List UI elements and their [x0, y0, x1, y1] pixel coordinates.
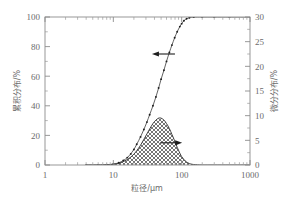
y2-tick-label: 5: [255, 136, 260, 146]
chart-canvas: 1101001000 020406080100 051015202530 粒径/…: [0, 0, 290, 204]
data-point: [186, 18, 188, 20]
y-tick-label: 40: [31, 101, 41, 111]
data-point: [168, 52, 170, 54]
data-point: [166, 60, 168, 62]
data-point: [136, 143, 138, 145]
data-point: [160, 78, 162, 80]
y-tick-label: 60: [31, 72, 41, 82]
data-point: [152, 105, 154, 107]
data-point: [163, 69, 165, 71]
data-point: [126, 157, 128, 159]
y2-tick-label: 20: [255, 62, 265, 72]
x-tick-label: 1000: [241, 170, 260, 180]
y-tick-label: 80: [31, 42, 41, 52]
y2-tick-label: 10: [255, 111, 265, 121]
x-axis-title: 粒径/μm: [131, 183, 163, 193]
x-tick-label: 100: [175, 170, 189, 180]
data-point: [122, 160, 124, 162]
data-point: [171, 44, 173, 46]
y-axis-right-title: 微分分布/%: [269, 69, 279, 112]
x-tick-label: 1: [43, 170, 48, 180]
data-point: [176, 31, 178, 33]
particle-size-distribution-chart: 1101001000 020406080100 051015202530 粒径/…: [0, 0, 290, 204]
data-point: [181, 23, 183, 25]
data-point: [174, 37, 176, 39]
data-point: [179, 26, 181, 28]
data-point: [133, 149, 135, 151]
data-point: [140, 136, 142, 138]
data-point: [149, 114, 151, 116]
data-point: [143, 129, 145, 131]
y-axis-left-title: 累积分布/%: [12, 69, 22, 112]
y2-tick-label: 25: [255, 37, 265, 47]
y-tick-label: 0: [36, 160, 41, 170]
data-point: [155, 96, 157, 98]
data-point: [118, 162, 120, 164]
data-point: [183, 20, 185, 22]
y-tick-label: 20: [31, 131, 41, 141]
y2-tick-label: 15: [255, 86, 265, 96]
data-point: [130, 153, 132, 155]
data-point: [146, 121, 148, 123]
y2-tick-label: 30: [255, 12, 265, 22]
y2-tick-label: 0: [255, 160, 260, 170]
data-point: [158, 87, 160, 89]
y-tick-label: 100: [27, 12, 41, 22]
x-tick-label: 10: [109, 170, 119, 180]
